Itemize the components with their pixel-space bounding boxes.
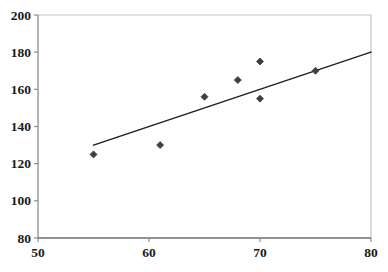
chart-canvas: 80100120140160180200 50607080 [0,0,388,272]
x-axis-tick-label: 80 [364,245,378,260]
x-axis-tick-label: 50 [31,245,45,260]
y-axis-tick-labels: 80100120140160180200 [11,8,32,246]
scatter-plot-figure: 80100120140160180200 50607080 [0,0,388,272]
x-axis-tick-labels: 50607080 [31,245,378,260]
y-axis-tick-label: 120 [11,156,32,171]
x-axis-tick-label: 70 [253,245,267,260]
y-axis-tick-label: 180 [11,45,32,60]
x-axis-tick-label: 60 [142,245,156,260]
plot-background [38,15,371,238]
y-axis-tick-label: 140 [11,119,32,134]
y-axis-tick-label: 200 [11,8,32,23]
y-axis-tick-label: 100 [11,193,32,208]
y-axis-tick-label: 80 [18,231,32,246]
y-axis-tick-label: 160 [11,82,32,97]
